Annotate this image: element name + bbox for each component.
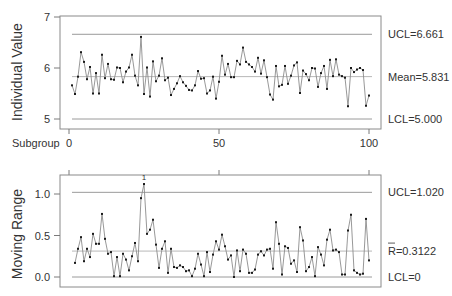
- moving-range-point: [242, 249, 244, 251]
- individual-point: [206, 93, 208, 95]
- moving-range-point: [263, 254, 265, 256]
- individual-point: [353, 71, 355, 73]
- subgroup-label: Subgroup: [12, 137, 60, 149]
- moving-range-point: [266, 249, 268, 251]
- individual-point: [251, 66, 253, 68]
- individual-point: [347, 105, 349, 107]
- individuals-lcl-label: LCL=5.000: [388, 113, 442, 125]
- individuals-series-line: [72, 37, 369, 106]
- moving-range-point: [104, 238, 106, 240]
- individual-point: [92, 93, 94, 95]
- individual-point: [83, 61, 85, 63]
- individual-point: [287, 83, 289, 85]
- mr-y-tick-label: 0.0: [35, 271, 50, 283]
- moving-range-point: [332, 249, 334, 251]
- moving-range-point: [296, 271, 298, 273]
- individual-point: [98, 93, 100, 95]
- moving-range-point: [347, 230, 349, 232]
- individual-point: [107, 63, 109, 65]
- moving-range-point: [308, 266, 310, 268]
- individual-point: [296, 61, 298, 63]
- moving-range-point: [152, 219, 154, 221]
- individual-point: [119, 67, 121, 69]
- individual-point: [173, 88, 175, 90]
- individual-point: [317, 86, 319, 88]
- moving-range-point: [254, 269, 256, 271]
- moving-range-point: [86, 248, 88, 250]
- moving-range-point: [344, 274, 346, 276]
- moving-range-point: [257, 254, 259, 256]
- individual-point: [302, 70, 304, 72]
- moving-range-point: [197, 253, 199, 255]
- moving-range-point: [218, 249, 220, 251]
- individuals-ucl-label: UCL=6.661: [388, 28, 444, 40]
- moving-range-point: [140, 197, 142, 199]
- individual-point: [323, 65, 325, 67]
- moving-range-point: [179, 264, 181, 266]
- individual-point: [326, 88, 328, 90]
- moving-range-point: [215, 240, 217, 242]
- moving-range-point: [194, 268, 196, 270]
- moving-range-point: [206, 251, 208, 253]
- moving-range-point: [122, 253, 124, 255]
- individual-point: [362, 69, 364, 71]
- moving-range-point: [329, 229, 331, 231]
- moving-range-point: [212, 254, 214, 256]
- moving-range-point: [230, 254, 232, 256]
- individual-point: [188, 89, 190, 91]
- individual-point: [263, 59, 265, 61]
- individual-point: [104, 77, 106, 79]
- individual-point: [314, 68, 316, 70]
- individual-point: [116, 66, 118, 68]
- individual-point: [197, 70, 199, 72]
- individual-point: [113, 79, 115, 81]
- moving-range-plot-frame: [60, 175, 381, 287]
- individual-point: [215, 98, 217, 100]
- moving-range-point: [305, 270, 307, 272]
- individual-point: [308, 79, 310, 81]
- individual-point: [350, 67, 352, 69]
- moving-range-point: [299, 226, 301, 228]
- individual-point: [149, 96, 151, 98]
- moving-range-point: [158, 267, 160, 269]
- moving-range-point: [188, 269, 190, 271]
- moving-range-point: [272, 268, 274, 270]
- individual-point: [95, 72, 97, 74]
- moving-range-point: [83, 260, 85, 262]
- moving-range-point: [89, 256, 91, 258]
- individuals-mean-label: Mean=5.831: [388, 71, 449, 83]
- moving-range-point: [185, 270, 187, 272]
- moving-range-point: [293, 259, 295, 261]
- individual-point: [134, 75, 136, 77]
- individual-point: [86, 78, 88, 80]
- individual-point: [155, 80, 157, 82]
- individual-point: [344, 77, 346, 79]
- moving-range-point: [80, 236, 82, 238]
- moving-range-chart: 0.00.51.0 1 Moving Range UCL=1.020R=0.31…: [9, 173, 444, 287]
- moving-range-point: [116, 256, 118, 258]
- mr-rbar-label: R=0.3122: [388, 245, 436, 257]
- moving-range-point: [221, 234, 223, 236]
- individual-point: [158, 75, 160, 77]
- moving-range-point: [239, 270, 241, 272]
- individual-point: [71, 84, 73, 86]
- individual-point: [242, 47, 244, 49]
- individual-point: [125, 71, 127, 73]
- moving-range-point: [290, 263, 292, 265]
- moving-range-point: [281, 274, 283, 276]
- individual-point: [212, 76, 214, 78]
- moving-range-point: [326, 239, 328, 241]
- individual-point: [245, 61, 247, 63]
- moving-range-point: [77, 248, 79, 250]
- out-of-control-flag: 1: [142, 173, 147, 182]
- moving-range-point: [164, 240, 166, 242]
- individual-point: [209, 89, 211, 91]
- mr-y-tick-label: 1.0: [35, 188, 50, 200]
- moving-range-point: [149, 229, 151, 231]
- individual-point: [272, 99, 274, 101]
- control-chart: 567 Individual Value Subgroup 050100 UCL…: [0, 0, 452, 296]
- moving-range-point: [353, 269, 355, 271]
- individual-point: [236, 60, 238, 62]
- moving-range-point: [335, 249, 337, 251]
- individual-point: [278, 85, 280, 87]
